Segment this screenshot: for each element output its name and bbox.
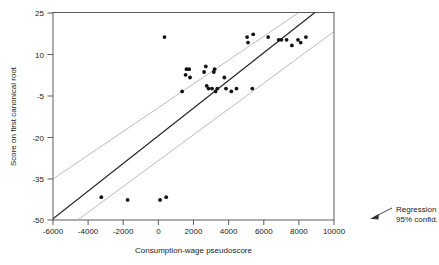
data-point xyxy=(207,87,211,91)
data-point xyxy=(126,198,130,202)
x-tick-label: 10000 xyxy=(323,227,346,236)
data-point xyxy=(164,195,168,199)
legend-label-regression: Regression xyxy=(396,205,436,214)
x-tick-label: -6000 xyxy=(43,227,64,236)
data-point xyxy=(235,87,239,91)
data-point xyxy=(158,198,162,202)
regression-line-group xyxy=(51,13,315,221)
y-tick-label: -20 xyxy=(32,134,44,143)
data-point xyxy=(280,38,284,42)
data-point xyxy=(245,35,249,39)
data-point xyxy=(285,38,289,42)
y-axis-title: Score on first canonical root xyxy=(9,66,18,166)
data-point xyxy=(202,70,206,74)
x-tick-label: 0 xyxy=(156,227,161,236)
data-point xyxy=(213,67,217,71)
x-tick-label: 4000 xyxy=(220,227,238,236)
data-point xyxy=(215,87,219,91)
x-axis: -6000 -4000 -2000 0 2000 4000 6000 8000 … xyxy=(43,220,346,236)
data-point xyxy=(188,76,192,80)
legend-arrow-head xyxy=(370,214,379,219)
data-point xyxy=(266,35,270,39)
x-tick-label: 2000 xyxy=(185,227,203,236)
x-axis-title: Consumption-wage pseudoscore xyxy=(135,246,253,255)
data-point xyxy=(204,65,208,69)
legend-label-confidence: 95% confid. xyxy=(396,215,438,224)
data-point xyxy=(224,87,228,91)
data-point xyxy=(163,35,167,39)
regression-line xyxy=(51,13,315,221)
y-axis: 25 10 -5 -20 -35 -50 xyxy=(32,9,53,225)
data-point xyxy=(99,195,103,199)
x-tick-label: -2000 xyxy=(113,227,134,236)
confidence-band-upper xyxy=(53,13,299,180)
y-tick-label: 10 xyxy=(35,51,44,60)
data-point xyxy=(180,90,184,94)
data-point xyxy=(229,90,233,94)
y-tick-label: -35 xyxy=(32,175,44,184)
data-point xyxy=(184,73,188,77)
data-point xyxy=(251,32,255,36)
legend: Regression 95% confid. xyxy=(370,205,438,224)
confidence-band-lower xyxy=(78,32,334,221)
scatter-plot-svg: 25 10 -5 -20 -35 -50 -6000 -4000 -2000 0… xyxy=(0,0,439,265)
x-tick-label: 8000 xyxy=(290,227,308,236)
data-point xyxy=(250,87,254,91)
y-tick-label: -5 xyxy=(37,92,45,101)
data-point xyxy=(299,41,303,45)
data-point xyxy=(222,76,226,80)
data-point xyxy=(210,87,214,91)
data-point xyxy=(290,44,294,48)
data-point xyxy=(187,67,191,71)
data-point xyxy=(296,38,300,42)
arrow-left-pointer-icon xyxy=(370,208,392,220)
data-point xyxy=(246,41,250,45)
x-tick-label: -4000 xyxy=(78,227,99,236)
x-tick-label: 6000 xyxy=(255,227,273,236)
chart-figure: 25 10 -5 -20 -35 -50 -6000 -4000 -2000 0… xyxy=(0,0,439,265)
data-point xyxy=(304,35,308,39)
y-tick-label: -50 xyxy=(32,216,44,225)
y-tick-label: 25 xyxy=(35,9,44,18)
data-points xyxy=(99,32,307,201)
